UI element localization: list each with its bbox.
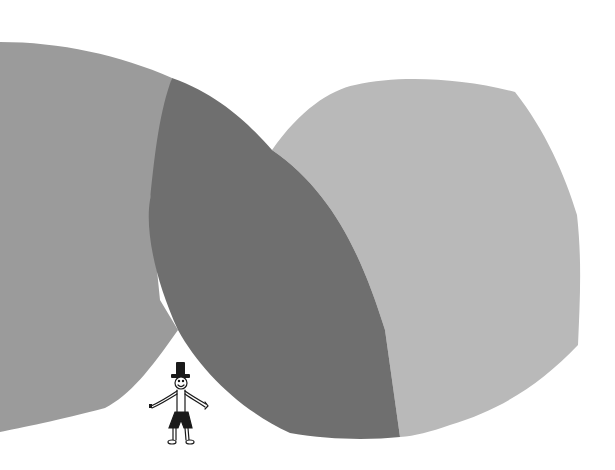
head <box>175 377 187 389</box>
illustration-canvas <box>0 0 615 470</box>
